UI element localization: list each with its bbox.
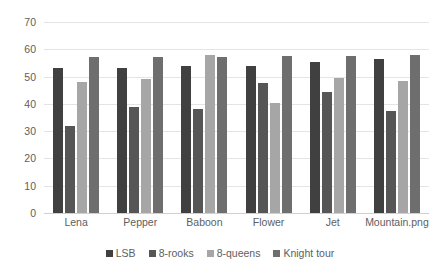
bar (181, 66, 191, 213)
bar (386, 111, 396, 213)
bar (217, 57, 227, 213)
legend-label: 8-rooks (159, 248, 194, 259)
x-tick-label: Mountain.png (365, 216, 429, 229)
bar (205, 55, 215, 213)
y-tick-label: 10 (24, 181, 36, 191)
bar (117, 68, 127, 213)
bar (374, 59, 384, 213)
x-tick-label: Jet (301, 216, 365, 229)
legend-swatch-icon (273, 250, 280, 257)
bar (282, 56, 292, 213)
bar-chart: 706050403020100 LenaPepperBaboonFlowerJe… (0, 0, 440, 273)
bar (346, 56, 356, 213)
y-tick-label: 20 (24, 153, 36, 163)
x-tick-label: Flower (237, 216, 301, 229)
y-axis: 706050403020100 (0, 0, 44, 273)
bar-group (108, 22, 172, 213)
bar (153, 57, 163, 213)
legend-swatch-icon (149, 250, 156, 257)
bar-group (172, 22, 236, 213)
x-tick-label: Baboon (172, 216, 236, 229)
legend-label: 8-queens (217, 248, 261, 259)
bar (141, 79, 151, 213)
bar-groups (44, 22, 429, 213)
y-tick-label: 50 (24, 72, 36, 82)
bar-group (44, 22, 108, 213)
bar-group (237, 22, 301, 213)
y-tick-label: 60 (24, 44, 36, 54)
bar (410, 55, 420, 213)
bar (246, 66, 256, 213)
chart-legend: LSB8-rooks8-queensKnight tour (0, 248, 440, 259)
x-axis: LenaPepperBaboonFlowerJetMountain.png (44, 216, 429, 229)
x-tick-label: Pepper (108, 216, 172, 229)
bar (270, 103, 280, 214)
legend-swatch-icon (207, 250, 214, 257)
legend-item[interactable]: Knight tour (273, 248, 334, 259)
x-tick-label: Lena (44, 216, 108, 229)
legend-label: Knight tour (283, 248, 334, 259)
legend-label: LSB (116, 248, 136, 259)
legend-swatch-icon (106, 250, 113, 257)
bar (77, 82, 87, 213)
y-tick-label: 40 (24, 99, 36, 109)
bar (89, 57, 99, 213)
y-tick-label: 30 (24, 126, 36, 136)
legend-item[interactable]: 8-queens (207, 248, 261, 259)
bar (310, 62, 320, 213)
legend-item[interactable]: 8-rooks (149, 248, 194, 259)
bar (129, 107, 139, 213)
bar (193, 109, 203, 213)
bar (334, 78, 344, 213)
bar-group (301, 22, 365, 213)
bar-group (365, 22, 429, 213)
legend-item[interactable]: LSB (106, 248, 136, 259)
y-tick-label: 0 (30, 208, 36, 218)
bar (258, 83, 268, 213)
axis-baseline (44, 213, 429, 214)
bar (65, 126, 75, 213)
bar (398, 81, 408, 213)
bar (53, 68, 63, 213)
bar (322, 92, 332, 213)
y-tick-label: 70 (24, 17, 36, 27)
